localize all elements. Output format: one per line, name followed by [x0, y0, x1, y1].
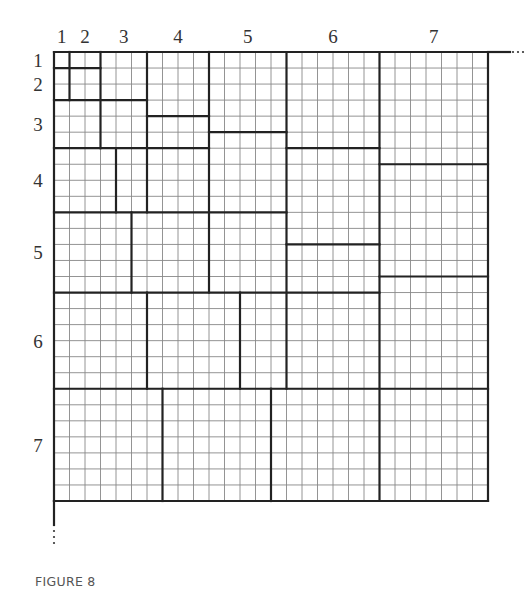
column-label: 7 [429, 26, 439, 47]
figure-caption: FIGURE 8 [35, 574, 96, 589]
column-labels: 1234567 [57, 26, 439, 47]
axis-extensions [53, 51, 524, 544]
continuation-dot [512, 51, 514, 53]
column-label: 2 [80, 26, 90, 47]
continuation-dot [517, 51, 519, 53]
column-label: 5 [243, 26, 253, 47]
row-labels: 1234567 [33, 50, 43, 456]
column-label: 4 [173, 26, 183, 47]
continuation-dot [53, 530, 55, 532]
row-label: 3 [33, 114, 43, 135]
row-label: 1 [33, 50, 43, 71]
row-label: 7 [33, 435, 43, 456]
sum-of-cubes-diagram: 1234567 1234567 [0, 0, 528, 594]
continuation-dot [53, 542, 55, 544]
continuation-dot [53, 536, 55, 538]
column-label: 6 [328, 26, 338, 47]
column-label: 3 [119, 26, 129, 47]
row-label: 4 [33, 170, 43, 191]
row-label: 6 [33, 331, 43, 352]
row-label: 5 [33, 242, 43, 263]
continuation-dot [522, 51, 524, 53]
column-label: 1 [57, 26, 67, 47]
row-label: 2 [33, 74, 43, 95]
